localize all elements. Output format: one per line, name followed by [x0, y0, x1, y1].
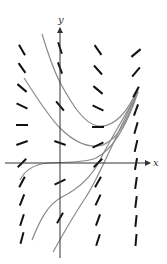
slope-segments: [16, 42, 141, 246]
slope-segment: [135, 215, 136, 227]
slope-segment: [135, 196, 136, 208]
x-axis-label: x: [153, 157, 159, 168]
slope-segment: [20, 232, 23, 244]
slope-segment: [131, 49, 140, 57]
slope-segment: [135, 158, 137, 170]
slope-segment: [135, 234, 136, 246]
slope-segment: [95, 195, 100, 206]
y-axis-label: y: [57, 14, 64, 25]
slope-segment: [20, 194, 25, 205]
slope-segment: [16, 141, 27, 145]
slope-segment: [135, 177, 137, 189]
slope-segment: [19, 63, 26, 73]
slope-segment: [93, 86, 102, 94]
slope-segment: [17, 103, 28, 108]
slope-segment: [17, 84, 26, 92]
slope-segment: [19, 177, 25, 188]
slope-segment: [95, 45, 102, 55]
curve-3: [20, 92, 138, 180]
slope-segment: [20, 214, 24, 225]
slope-segment: [96, 234, 100, 245]
slope-segment: [93, 105, 104, 110]
slope-segment: [134, 122, 137, 134]
curve-2: [24, 78, 138, 146]
solution-curves: [20, 34, 138, 252]
slope-segment: [94, 66, 102, 75]
slope-segment: [132, 67, 140, 76]
slope-segment: [134, 104, 138, 115]
slope-segment: [19, 45, 25, 55]
direction-field-figure: x y: [0, 0, 167, 264]
curve-1: [42, 34, 138, 126]
slope-segment: [96, 214, 100, 225]
slope-segment: [135, 140, 138, 152]
